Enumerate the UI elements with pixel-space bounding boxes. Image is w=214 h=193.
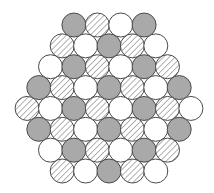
hatched-circle (85, 96, 109, 120)
gray-circle (167, 117, 191, 141)
gray-circle (62, 55, 86, 79)
white-circle (74, 117, 98, 141)
white-circle (109, 13, 133, 37)
hatched-circle (50, 159, 74, 183)
white-circle (39, 55, 63, 79)
hatched-circle (50, 117, 74, 141)
gray-circle (132, 96, 156, 120)
white-circle (74, 34, 98, 58)
circle-packing-figure (0, 0, 214, 193)
hatched-circle (50, 76, 74, 100)
white-circle (144, 76, 168, 100)
gray-circle (97, 76, 121, 100)
hatched-circle (120, 117, 144, 141)
gray-circle (132, 55, 156, 79)
hatched-circle (85, 55, 109, 79)
white-circle (144, 159, 168, 183)
hatched-circle (120, 34, 144, 58)
white-circle (144, 34, 168, 58)
gray-circle (62, 13, 86, 37)
gray-circle (97, 34, 121, 58)
hatched-circle (120, 76, 144, 100)
white-circle (109, 55, 133, 79)
white-circle (39, 96, 63, 120)
gray-circle (132, 138, 156, 162)
hatched-circle (50, 34, 74, 58)
gray-circle (97, 159, 121, 183)
hatched-circle (120, 159, 144, 183)
white-circle (74, 76, 98, 100)
circle-grid (15, 13, 203, 183)
white-circle (109, 138, 133, 162)
hatched-circle (85, 138, 109, 162)
hatched-circle (156, 55, 180, 79)
hatched-circle (85, 13, 109, 37)
white-circle (109, 96, 133, 120)
gray-circle (62, 138, 86, 162)
gray-circle (132, 13, 156, 37)
gray-circle (167, 76, 191, 100)
hatched-circle (156, 138, 180, 162)
gray-circle (97, 117, 121, 141)
hatched-circle (15, 96, 39, 120)
white-circle (39, 138, 63, 162)
gray-circle (27, 76, 51, 100)
packing-diagram (0, 0, 214, 193)
white-circle (144, 117, 168, 141)
hatched-circle (156, 96, 180, 120)
gray-circle (27, 117, 51, 141)
gray-circle (62, 96, 86, 120)
white-circle (179, 96, 203, 120)
white-circle (74, 159, 98, 183)
